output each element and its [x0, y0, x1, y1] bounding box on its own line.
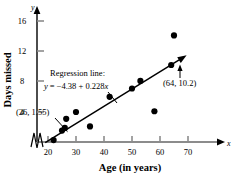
point-annotation-high-label: (64, 10.2)	[163, 78, 196, 88]
y-axis	[34, 6, 41, 142]
y-tick-label: 16	[18, 16, 27, 26]
data-point	[137, 78, 143, 84]
data-point	[51, 137, 57, 143]
x-axis-title: Age (in years)	[99, 162, 162, 174]
regression-line-label: Regression line:	[50, 68, 105, 78]
x-tick-label: 20	[44, 147, 53, 157]
data-point	[87, 123, 93, 129]
x-tick-label: 40	[100, 147, 109, 157]
data-point	[129, 85, 135, 91]
regression-equation-rhs: = −4.38 + 0.228	[50, 81, 105, 91]
data-point	[171, 32, 177, 38]
x-tick-label: 60	[156, 147, 165, 157]
regression-equation: y= −4.38 + 0.228x	[43, 81, 109, 91]
point-annotation-low-label: (26, 1.55)	[16, 107, 49, 117]
point-annotation-high-arrowhead	[177, 65, 182, 72]
data-point	[151, 108, 157, 114]
data-point	[63, 116, 69, 122]
y-axis-variable-label: y	[30, 3, 35, 12]
y-tick-group: 16 12 8 4	[18, 16, 44, 117]
scatter-plot-figure: y x 16 12 8 4 20 30 40 50	[0, 0, 233, 176]
x-tick-label: 50	[128, 147, 137, 157]
y-axis-title: Days missed	[2, 52, 13, 107]
x-tick-label: 30	[72, 147, 81, 157]
y-tick-label: 8	[20, 76, 24, 86]
y-tick-label: 12	[18, 46, 27, 56]
regression-equation-x: x	[104, 81, 109, 91]
data-point	[168, 62, 174, 68]
x-axis-variable-label: x	[226, 139, 231, 148]
x-tick-label: 70	[184, 147, 193, 157]
regression-equation-variable: y	[43, 81, 48, 91]
chart-canvas: y x 16 12 8 4 20 30 40 50	[0, 0, 233, 176]
x-tick-group: 20 30 40 50 60 70	[44, 136, 193, 157]
x-axis	[37, 139, 225, 146]
data-point	[73, 109, 79, 115]
